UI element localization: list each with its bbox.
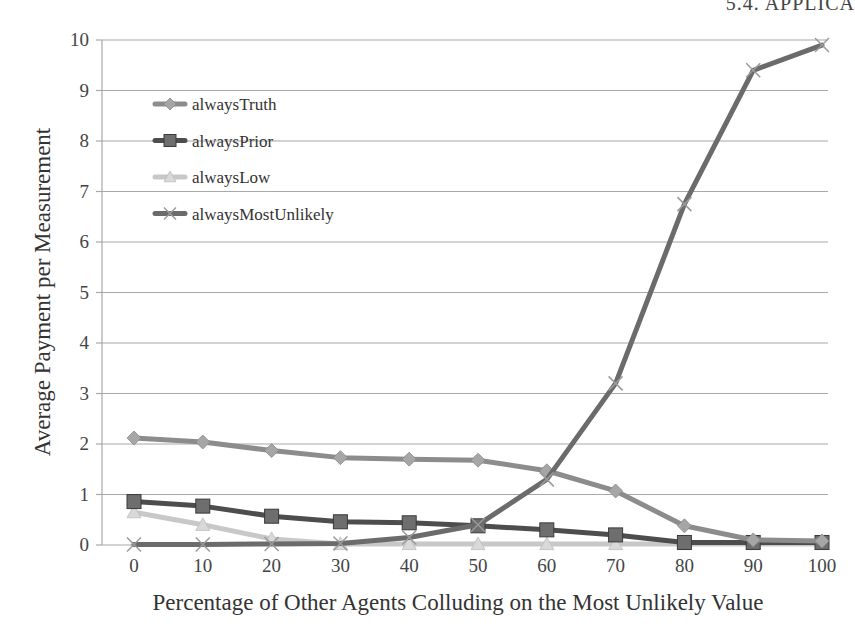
x-tick-label: 40 — [400, 555, 419, 576]
square-marker-icon — [609, 528, 623, 542]
x-tick-label: 30 — [331, 555, 350, 576]
legend-item-alwaysMostUnlikely: alwaysMostUnlikely — [155, 205, 334, 224]
square-marker-icon — [677, 535, 691, 549]
y-tick-label: 8 — [80, 130, 90, 151]
legend-item-alwaysTruth: alwaysTruth — [155, 95, 277, 114]
y-axis-title: Average Payment per Measurement — [30, 127, 55, 456]
y-tick-label: 1 — [80, 484, 90, 505]
y-tick-label: 0 — [80, 534, 90, 555]
y-tick-label: 2 — [80, 433, 90, 454]
x-axis-title: Percentage of Other Agents Colluding on … — [153, 590, 764, 615]
y-tick-label: 9 — [80, 80, 90, 101]
y-tick-label: 4 — [80, 332, 90, 353]
series-layer — [127, 38, 829, 551]
square-marker-icon — [402, 516, 416, 530]
x-tick-label: 10 — [193, 555, 212, 576]
diamond-marker-icon — [196, 435, 210, 449]
series-line — [134, 45, 822, 544]
square-marker-icon — [265, 509, 279, 523]
square-marker-icon — [196, 499, 210, 513]
line-chart: 0123456789100102030405060708090100 alway… — [0, 0, 855, 638]
diamond-marker-icon — [127, 431, 141, 445]
y-tick-label: 10 — [70, 29, 89, 50]
diamond-marker-icon — [333, 451, 347, 465]
y-tick-label: 3 — [80, 383, 90, 404]
square-marker-icon — [127, 495, 141, 509]
legend-label: alwaysPrior — [192, 132, 274, 151]
x-tick-label: 60 — [537, 555, 556, 576]
x-tick-label: 20 — [262, 555, 281, 576]
square-marker-icon — [164, 135, 176, 147]
legend-label: alwaysMostUnlikely — [192, 205, 334, 224]
x-tick-label: 80 — [675, 555, 694, 576]
x-tick-label: 70 — [606, 555, 625, 576]
y-tick-label: 6 — [80, 231, 90, 252]
diamond-marker-icon — [164, 98, 176, 110]
legend-label: alwaysTruth — [192, 95, 277, 114]
diamond-marker-icon — [471, 453, 485, 467]
y-tick-label: 5 — [80, 282, 90, 303]
x-tick-label: 50 — [469, 555, 488, 576]
x-tick-label: 100 — [808, 555, 837, 576]
x-tick-label: 0 — [129, 555, 139, 576]
series-alwaysMostUnlikely — [127, 38, 829, 551]
legend-item-alwaysPrior: alwaysPrior — [155, 132, 274, 151]
square-marker-icon — [333, 515, 347, 529]
diamond-marker-icon — [265, 444, 279, 458]
legend-item-alwaysLow: alwaysLow — [155, 168, 271, 187]
diamond-marker-icon — [402, 452, 416, 466]
y-tick-label: 7 — [80, 181, 90, 202]
legend-label: alwaysLow — [192, 168, 271, 187]
legend: alwaysTruthalwaysPrioralwaysLowalwaysMos… — [155, 95, 334, 224]
x-tick-label: 90 — [744, 555, 763, 576]
square-marker-icon — [540, 523, 554, 537]
